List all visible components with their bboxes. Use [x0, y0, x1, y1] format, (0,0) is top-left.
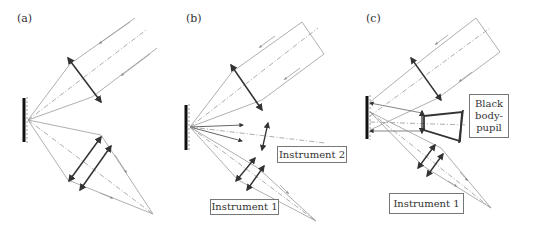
panel-label-a: (a) — [17, 12, 32, 25]
blackbody-cone — [424, 112, 462, 141]
blackbody-line3: pupil — [476, 122, 502, 134]
panel-label-c: (c) — [366, 12, 381, 25]
blackbody-pupil-label: Black body- pupil — [469, 94, 509, 138]
panel-b — [186, 22, 325, 221]
lens-b-lower-2 — [247, 166, 264, 190]
lens-b-lower-1 — [236, 158, 255, 181]
lens-a-upper — [68, 58, 101, 102]
lens-b-upper — [231, 65, 262, 110]
lens-c-lower-2 — [427, 154, 443, 176]
instrument-2-label: Instrument 2 — [277, 146, 347, 163]
lens-c-lower-1 — [418, 145, 435, 168]
blackbody-line2: body- — [475, 110, 503, 122]
lens-b-instrument2 — [262, 123, 268, 150]
panel-a — [24, 18, 157, 214]
b-instrument-1-label: Instrument 1 — [210, 199, 279, 215]
c-instrument-1-label: Instrument 1 — [389, 193, 464, 214]
lens-a-lower-1 — [69, 137, 101, 181]
blackbody-line1: Black — [475, 98, 503, 110]
panel-label-b: (b) — [186, 12, 202, 25]
lens-c-upper — [411, 58, 441, 100]
lens-a-lower-2 — [80, 146, 111, 190]
